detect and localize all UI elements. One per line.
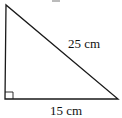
triangle-svg: [0, 0, 122, 118]
base-label: 15 cm: [50, 104, 82, 117]
right-angle-marker: [5, 92, 13, 99]
hypotenuse-label: 25 cm: [68, 37, 100, 50]
right-triangle: [5, 5, 118, 99]
triangle-diagram: 25 cm 15 cm: [0, 0, 122, 118]
